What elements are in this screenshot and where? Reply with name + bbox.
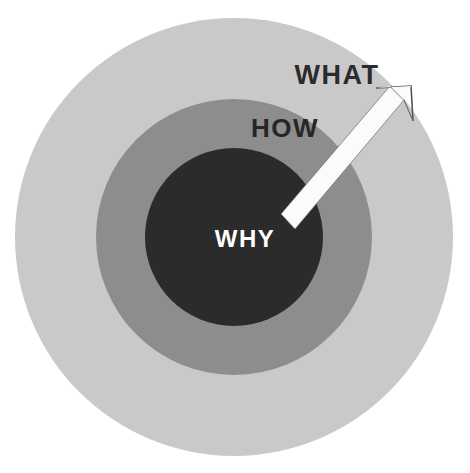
label-how: HOW (251, 113, 319, 143)
golden-circle-diagram: WHAT HOW WHY (0, 0, 470, 473)
label-what: WHAT (295, 60, 380, 90)
golden-circle-svg: WHAT HOW WHY (0, 0, 470, 473)
label-why: WHY (215, 225, 276, 252)
